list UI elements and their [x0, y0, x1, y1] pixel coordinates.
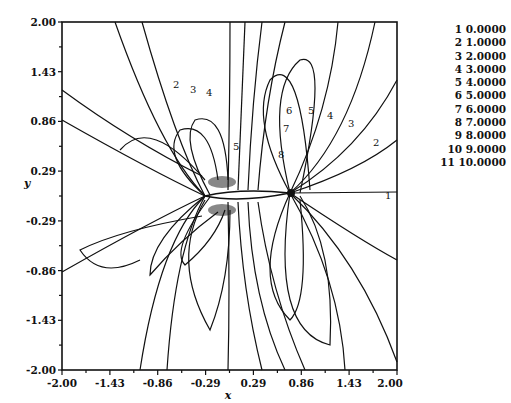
legend-entry: 6 5.0000 [430, 89, 506, 102]
contour-label: 5 [308, 105, 314, 116]
y-tick-label: -1.43 [26, 314, 56, 326]
y-tick-label: -0.86 [26, 265, 56, 277]
legend: 1 0.0000 2 1.0000 3 2.0000 4 3.0000 5 4.… [430, 23, 506, 169]
x-tick-label: -0.29 [191, 377, 221, 389]
y-tick-label: 2.00 [30, 16, 56, 28]
x-tick-label: 0.86 [289, 377, 315, 389]
x-axis-label: x [224, 389, 232, 402]
contour-label: 8 [278, 149, 284, 160]
y-tick-label: -0.29 [26, 215, 56, 227]
legend-entry: 10 9.0000 [430, 143, 506, 156]
legend-entry: 11 10.0000 [430, 156, 506, 169]
contour-label: 4 [327, 110, 333, 121]
contour-label: 6 [286, 105, 292, 116]
x-tick-label: 2.00 [377, 377, 403, 389]
x-tick-label: 1.43 [336, 377, 362, 389]
y-tick-label: 0.86 [30, 115, 56, 127]
legend-entry: 5 4.0000 [430, 76, 506, 89]
contour-label: 2 [173, 79, 179, 90]
legend-entry: 7 6.0000 [430, 103, 506, 116]
x-tick-label: -0.86 [143, 377, 173, 389]
contour-label: 5 [233, 141, 239, 152]
contour-label: 7 [283, 123, 289, 134]
y-tick-label: 0.29 [30, 165, 56, 177]
contour-label: 3 [348, 118, 354, 129]
legend-entry: 1 0.0000 [430, 23, 506, 36]
contour-label: 1 [385, 190, 391, 201]
y-tick-label: 1.43 [30, 66, 56, 78]
legend-entry: 8 7.0000 [430, 116, 506, 129]
y-tick-label: -2.00 [26, 364, 56, 376]
dense-contour-region [208, 176, 295, 216]
y-axis-label: y [23, 177, 32, 190]
contour-label: 3 [190, 84, 196, 95]
legend-entry: 9 8.0000 [430, 129, 506, 142]
x-tick-label: -1.43 [95, 377, 125, 389]
contour-lines [62, 22, 397, 370]
x-tick-label: 0.29 [241, 377, 267, 389]
x-tick-label: -2.00 [47, 377, 77, 389]
legend-entry: 2 1.0000 [430, 36, 506, 49]
contour-label: 4 [206, 87, 212, 98]
legend-entry: 4 3.0000 [430, 63, 506, 76]
contour-label: 2 [373, 137, 379, 148]
legend-entry: 3 2.0000 [430, 50, 506, 63]
